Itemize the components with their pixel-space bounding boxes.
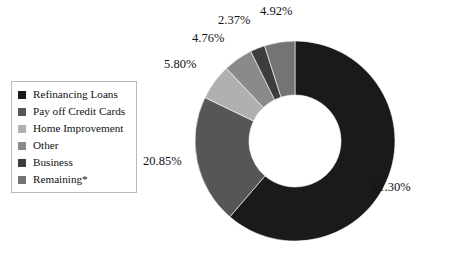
value-label-other: 4.76% xyxy=(192,32,224,45)
legend-swatch-icon xyxy=(18,159,26,167)
value-label-refinancing-loans: 61.30% xyxy=(372,181,411,194)
legend-swatch-icon xyxy=(18,142,26,150)
legend-item-label: Other xyxy=(33,140,58,151)
legend-item-business[interactable]: Business xyxy=(18,154,130,171)
donut-chart: Refinancing Loans Pay off Credit Cards H… xyxy=(0,0,452,263)
legend-item-remaining[interactable]: Remaining* xyxy=(18,171,130,188)
donut-slice-group xyxy=(195,41,395,241)
legend-item-label: Home Improvement xyxy=(33,123,123,134)
legend-item-other[interactable]: Other xyxy=(18,137,130,154)
legend-swatch-icon xyxy=(18,91,26,99)
value-label-home-improvement: 5.80% xyxy=(164,58,196,71)
legend-item-pay-off-credit-cards[interactable]: Pay off Credit Cards xyxy=(18,103,130,120)
value-label-business: 2.37% xyxy=(218,14,250,27)
legend-swatch-icon xyxy=(18,125,26,133)
legend-item-home-improvement[interactable]: Home Improvement xyxy=(18,120,130,137)
chart-legend: Refinancing Loans Pay off Credit Cards H… xyxy=(11,81,137,193)
legend-item-label: Pay off Credit Cards xyxy=(33,106,125,117)
donut-svg xyxy=(195,41,395,241)
legend-item-label: Remaining* xyxy=(33,174,88,185)
legend-swatch-icon xyxy=(18,176,26,184)
legend-item-refinancing-loans[interactable]: Refinancing Loans xyxy=(18,86,130,103)
value-label-pay-off-credit-cards: 20.85% xyxy=(143,155,182,168)
donut-plot-area xyxy=(195,41,395,241)
value-label-remaining: 4.92% xyxy=(260,5,292,18)
legend-swatch-icon xyxy=(18,108,26,116)
legend-item-label: Business xyxy=(33,157,73,168)
legend-item-label: Refinancing Loans xyxy=(33,89,118,100)
